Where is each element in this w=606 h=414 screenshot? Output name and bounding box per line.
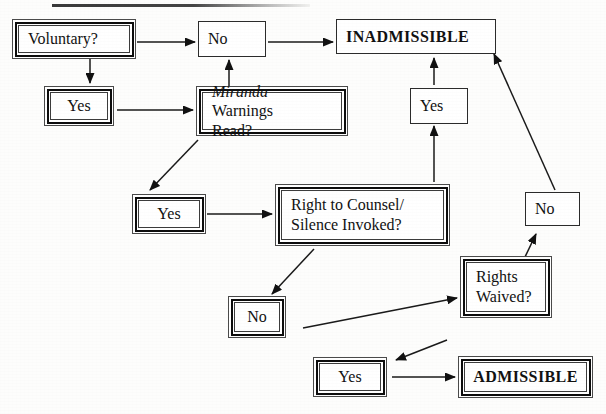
node-rights-waived[interactable]: Rights Waived? — [460, 256, 552, 318]
node-no-top[interactable]: No — [198, 21, 266, 57]
node-rights-waived-line1: Rights — [476, 268, 518, 285]
edge-no-right-to-inadmissible — [494, 54, 555, 190]
node-yes-counsel[interactable]: Yes — [132, 194, 206, 234]
node-miranda-rest-label: Warnings — [212, 102, 273, 119]
node-inadmissible[interactable]: INADMISSIBLE — [336, 19, 496, 54]
node-no-mid[interactable]: No — [228, 296, 286, 338]
node-right-counsel-line1: Right to Counsel/ — [291, 196, 404, 213]
node-yes-left-label: Yes — [63, 96, 94, 116]
edge-right-counsel-to-no-mid — [272, 249, 314, 294]
node-voluntary-label: Voluntary? — [19, 29, 107, 49]
edge-rights-waived-to-yes-bottom — [396, 340, 447, 360]
node-no-right[interactable]: No — [525, 192, 580, 226]
node-miranda-text: Miranda Warnings Read? — [203, 82, 341, 141]
node-miranda-line2-label: Read? — [212, 122, 252, 139]
node-yes-left[interactable]: Yes — [44, 86, 114, 126]
edge-no-mid-to-rights-waived — [303, 298, 457, 328]
node-inadmissible-label: INADMISSIBLE — [337, 27, 478, 47]
node-miranda-italic-label: Miranda — [212, 83, 268, 100]
node-voluntary[interactable]: Voluntary? — [12, 19, 136, 59]
node-yes-counsel-label: Yes — [153, 204, 184, 224]
node-admissible-label: ADMISSIBLE — [469, 367, 581, 387]
node-right-to-counsel-text: Right to Counsel/ Silence Invoked? — [282, 195, 413, 234]
node-right-to-counsel[interactable]: Right to Counsel/ Silence Invoked? — [275, 184, 450, 246]
node-no-right-label: No — [526, 199, 564, 219]
node-yes-inadmissible[interactable]: Yes — [410, 88, 468, 124]
node-yes-inadmissible-label: Yes — [411, 96, 452, 116]
node-yes-bottom-label: Yes — [334, 367, 365, 387]
edge-miranda-to-yes-counsel — [150, 140, 198, 190]
flowchart-canvas: Voluntary? No INADMISSIBLE Yes Miranda W… — [0, 0, 606, 414]
node-rights-waived-text: Rights Waived? — [467, 267, 541, 306]
node-no-mid-label: No — [243, 307, 271, 327]
node-admissible[interactable]: ADMISSIBLE — [458, 356, 593, 398]
node-no-top-label: No — [199, 29, 237, 49]
node-miranda-warnings[interactable]: Miranda Warnings Read? — [196, 86, 348, 136]
node-right-counsel-line2: Silence Invoked? — [291, 216, 402, 233]
node-rights-waived-line2: Waived? — [476, 288, 532, 305]
node-yes-bottom[interactable]: Yes — [313, 357, 387, 397]
